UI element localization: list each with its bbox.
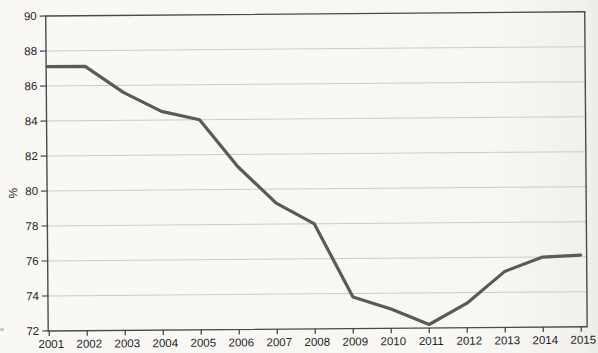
gridline bbox=[48, 257, 587, 261]
y-tick-label: 74 bbox=[26, 290, 39, 302]
y-tick-label: 82 bbox=[25, 150, 38, 162]
x-tick-label: 2009 bbox=[342, 335, 368, 347]
x-tick-label: 2003 bbox=[114, 337, 140, 349]
y-tick-label: 76 bbox=[26, 255, 39, 267]
x-tick-label: 2001 bbox=[38, 338, 64, 350]
y-tick-label: 88 bbox=[24, 45, 37, 57]
y-tick-label: 86 bbox=[24, 80, 37, 92]
x-tick-label: 2013 bbox=[494, 334, 520, 346]
x-tick-label: 2015 bbox=[570, 334, 596, 346]
x-tick-label: 2004 bbox=[152, 337, 178, 349]
y-tick-label: 90 bbox=[24, 10, 37, 22]
x-tick-label: 2014 bbox=[532, 334, 558, 346]
gridline bbox=[47, 152, 586, 156]
chart-area: % 72747678808284868890200120022003200420… bbox=[0, 0, 598, 353]
y-tick-label: 72 bbox=[26, 325, 39, 337]
data-series-line bbox=[47, 63, 581, 328]
x-tick-label: 2010 bbox=[380, 335, 406, 347]
scan-artifact bbox=[0, 328, 4, 331]
gridline bbox=[47, 117, 586, 121]
x-tick-label: 2012 bbox=[456, 335, 482, 347]
gridline bbox=[47, 187, 586, 191]
x-tick-label: 2002 bbox=[76, 338, 102, 350]
line-chart-svg: 7274767880828486889020012002200320042005… bbox=[0, 0, 598, 353]
x-tick-label: 2006 bbox=[228, 336, 254, 348]
x-tick-label: 2007 bbox=[266, 336, 292, 348]
plot-border bbox=[46, 12, 587, 331]
y-tick-label: 84 bbox=[25, 115, 38, 127]
x-tick-label: 2011 bbox=[419, 335, 444, 347]
y-axis-label: % bbox=[6, 187, 20, 198]
x-tick-label: 2005 bbox=[190, 337, 216, 349]
scanned-chart-page: % 72747678808284868890200120022003200420… bbox=[0, 0, 598, 353]
x-tick-label: 2008 bbox=[304, 336, 330, 348]
gridline bbox=[48, 292, 587, 296]
y-tick-label: 80 bbox=[25, 185, 38, 197]
gridline bbox=[46, 82, 585, 86]
y-tick-label: 78 bbox=[26, 220, 39, 232]
gridline bbox=[46, 47, 585, 51]
